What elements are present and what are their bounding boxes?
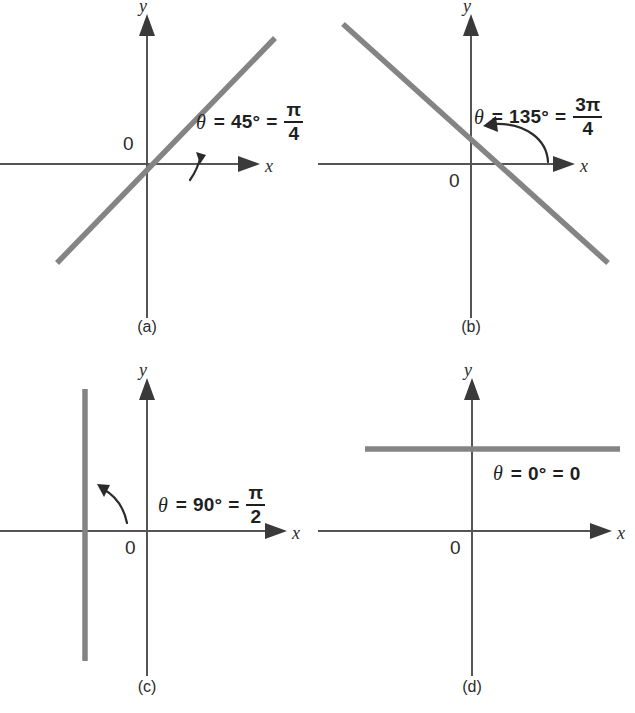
y-axis-arrowhead bbox=[139, 378, 155, 400]
equals-sign-1: = bbox=[486, 107, 509, 126]
degree-symbol: ° bbox=[539, 464, 547, 483]
angle-degrees-value: 0 bbox=[528, 464, 539, 483]
y-axis-label: y bbox=[137, 360, 147, 380]
panel-caption-d: (d) bbox=[442, 678, 502, 696]
origin-label: 0 bbox=[125, 537, 136, 558]
x-axis-arrowhead bbox=[265, 523, 287, 539]
equals-sign-2: = bbox=[222, 495, 245, 514]
radian-fraction: 3π 4 bbox=[572, 95, 603, 139]
x-axis-arrowhead bbox=[238, 156, 260, 172]
theta-symbol: θ bbox=[196, 112, 208, 132]
theta-symbol: θ bbox=[158, 495, 170, 515]
degree-symbol: ° bbox=[214, 495, 222, 514]
y-axis-arrowhead bbox=[463, 14, 479, 36]
equals-sign-1: = bbox=[170, 495, 193, 514]
equals-sign-2: = bbox=[547, 464, 570, 483]
panel-caption-b: (b) bbox=[441, 318, 501, 336]
y-axis-label: y bbox=[461, 0, 471, 16]
radian-numerator: π bbox=[284, 100, 303, 120]
angle-equation-a: θ = 45 ° = π 4 bbox=[196, 100, 304, 144]
panel-c-graph: x y 0 bbox=[0, 356, 318, 713]
radian-fraction: π 4 bbox=[283, 100, 304, 144]
degree-symbol: ° bbox=[541, 107, 549, 126]
radian-fraction: π 2 bbox=[245, 483, 266, 527]
angle-line bbox=[343, 24, 608, 263]
panel-d: x y 0 θ = 0 ° = 0 (d) bbox=[318, 356, 635, 713]
x-axis-label: x bbox=[579, 156, 588, 176]
angle-arc-arrowhead bbox=[97, 484, 110, 497]
radian-denominator: 2 bbox=[248, 507, 263, 527]
figure-root: x y 0 θ = 45 ° = π 4 (a) bbox=[0, 0, 635, 713]
radian-numerator: 3π bbox=[573, 95, 602, 115]
y-axis-label: y bbox=[462, 360, 472, 380]
x-axis-arrowhead bbox=[590, 523, 612, 539]
panel-b-graph: x y 0 bbox=[318, 0, 635, 356]
x-axis-arrowhead bbox=[553, 156, 575, 172]
theta-symbol: θ bbox=[474, 107, 486, 127]
x-axis-label: x bbox=[291, 523, 300, 543]
angle-line bbox=[57, 38, 275, 263]
origin-label: 0 bbox=[123, 133, 134, 154]
origin-label: 0 bbox=[450, 537, 461, 558]
equals-sign-2: = bbox=[549, 107, 572, 126]
equals-sign-1: = bbox=[208, 112, 231, 131]
angle-degrees-value: 90 bbox=[193, 495, 215, 514]
y-axis-arrowhead bbox=[464, 378, 480, 400]
radian-denominator: 4 bbox=[286, 124, 301, 144]
degree-symbol: ° bbox=[252, 112, 260, 131]
y-axis-label: y bbox=[137, 0, 147, 16]
theta-symbol: θ bbox=[493, 463, 505, 483]
angle-arc-arrowhead bbox=[196, 152, 206, 164]
panel-a: x y 0 θ = 45 ° = π 4 (a) bbox=[0, 0, 318, 356]
panel-c: x y 0 θ = 90 ° = π 2 (c) bbox=[0, 356, 318, 713]
origin-label: 0 bbox=[449, 170, 460, 191]
panel-a-graph: x y 0 bbox=[0, 0, 318, 356]
x-axis-label: x bbox=[616, 523, 625, 543]
panel-d-graph: x y 0 bbox=[318, 356, 635, 713]
x-axis-label: x bbox=[264, 156, 273, 176]
equals-sign-2: = bbox=[260, 112, 283, 131]
angle-equation-c: θ = 90 ° = π 2 bbox=[158, 483, 266, 527]
y-axis-arrowhead bbox=[139, 14, 155, 36]
panel-b: x y 0 θ = 135 ° = 3π 4 (b) bbox=[318, 0, 635, 356]
radian-value-plain: 0 bbox=[570, 464, 581, 483]
radian-numerator: π bbox=[246, 483, 265, 503]
angle-equation-d: θ = 0 ° = 0 bbox=[493, 463, 580, 483]
radian-denominator: 4 bbox=[580, 119, 595, 139]
angle-degrees-value: 45 bbox=[231, 112, 253, 131]
angle-degrees-value: 135 bbox=[509, 107, 541, 126]
angle-arc bbox=[103, 489, 127, 523]
panel-caption-c: (c) bbox=[117, 678, 177, 696]
panel-caption-a: (a) bbox=[117, 318, 177, 336]
angle-equation-b: θ = 135 ° = 3π 4 bbox=[474, 95, 603, 139]
equals-sign-1: = bbox=[505, 464, 528, 483]
